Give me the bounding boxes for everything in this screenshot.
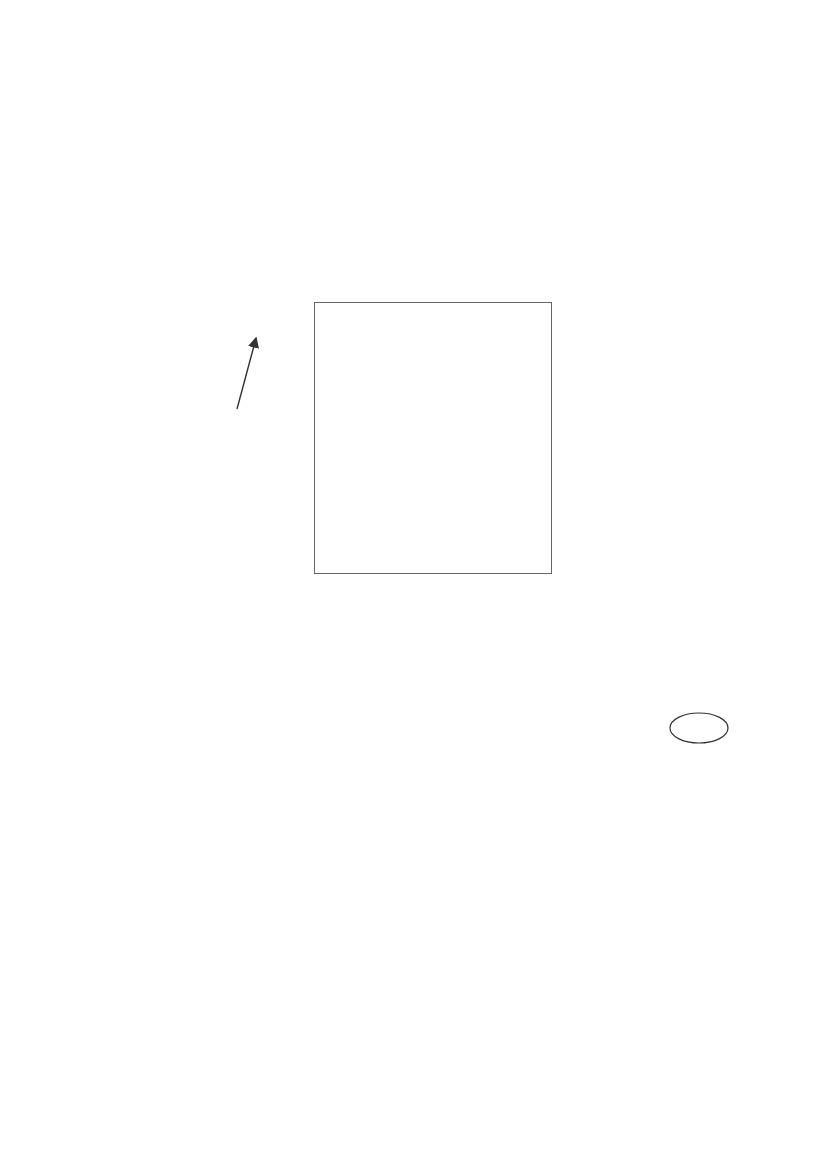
chart-ecoindicator xyxy=(0,0,830,1173)
highlight-ellipse-icon xyxy=(0,0,830,1173)
